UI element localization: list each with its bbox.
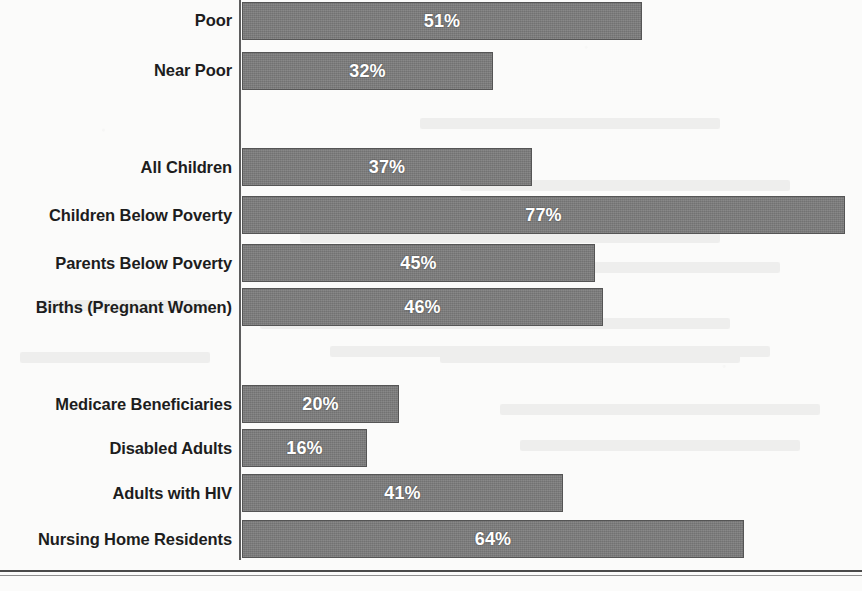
category-label: Disabled Adults (109, 440, 232, 457)
bar-row: Disabled Adults 16% (0, 429, 862, 467)
bar-row: All Children 37% (0, 148, 862, 186)
category-label: Nursing Home Residents (38, 531, 232, 548)
bar-value-label: 16% (243, 430, 366, 466)
bar-value-label: 51% (243, 3, 641, 39)
bar-value-label: 77% (243, 197, 844, 233)
category-label: Near Poor (154, 62, 232, 79)
category-label: All Children (141, 159, 232, 176)
bar-value-label: 64% (243, 521, 743, 557)
bar-row: Parents Below Poverty 45% (0, 244, 862, 282)
bar-row: Poor 51% (0, 2, 862, 40)
category-label: Parents Below Poverty (55, 255, 232, 272)
bar-value-label: 20% (243, 386, 398, 422)
bar-row: Medicare Beneficiaries 20% (0, 385, 862, 423)
figure-bottom-rule-secondary (0, 575, 862, 576)
bar-value-label: 46% (243, 289, 602, 325)
figure-bottom-rule (0, 570, 862, 572)
bar[interactable]: 77% (242, 196, 845, 234)
bar[interactable]: 64% (242, 520, 744, 558)
plot-area: Poor 51% Near Poor 32% All Children 37% … (0, 0, 862, 565)
bar[interactable]: 32% (242, 52, 493, 90)
bar[interactable]: 16% (242, 429, 367, 467)
bar-value-label: 37% (243, 149, 531, 185)
chart-figure: Poor 51% Near Poor 32% All Children 37% … (0, 0, 862, 591)
bar-value-label: 32% (243, 53, 492, 89)
bar[interactable]: 46% (242, 288, 603, 326)
bar-value-label: 45% (243, 245, 594, 281)
bar[interactable]: 37% (242, 148, 532, 186)
category-label: Children Below Poverty (49, 207, 232, 224)
category-label: Births (Pregnant Women) (36, 299, 232, 316)
bar-row: Births (Pregnant Women) 46% (0, 288, 862, 326)
bar[interactable]: 51% (242, 2, 642, 40)
bar-row: Children Below Poverty 77% (0, 196, 862, 234)
bar-row: Near Poor 32% (0, 52, 862, 90)
bar[interactable]: 20% (242, 385, 399, 423)
category-label: Adults with HIV (113, 485, 233, 502)
category-label: Medicare Beneficiaries (55, 396, 232, 413)
bar-row: Nursing Home Residents 64% (0, 520, 862, 558)
bar-value-label: 41% (243, 475, 562, 511)
bar-row: Adults with HIV 41% (0, 474, 862, 512)
bar[interactable]: 45% (242, 244, 595, 282)
category-label: Poor (195, 12, 232, 29)
bar[interactable]: 41% (242, 474, 563, 512)
